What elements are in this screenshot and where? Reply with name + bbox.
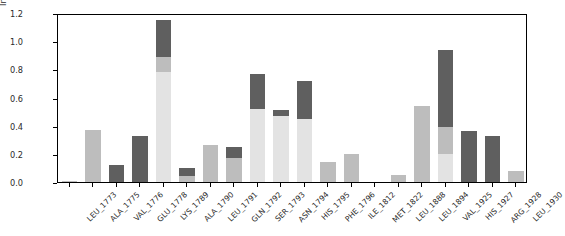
bar-his_1795 [297,13,313,182]
bar-leu_1894 [414,13,430,182]
bar-ile_1812 [344,13,360,182]
bar-segment-dark [226,147,242,158]
bar-segment-light [438,154,454,182]
bar-leu_1930 [508,13,524,182]
bar-glu_1778 [132,13,148,182]
bar-segment-dark [132,136,148,182]
bar-his_1927 [461,13,477,182]
x-axis-tick-mark [327,183,328,187]
y-axis-tick-label: 0.4 [10,122,23,132]
bar-segment-medium [226,158,242,182]
x-axis-tick-mark [515,183,516,187]
x-axis-tick-mark [116,183,117,187]
bar-segment-medium [156,57,172,72]
bar-val_1776 [109,13,125,182]
x-axis-tick-mark [92,183,93,187]
y-axis-tick-label: 1.0 [10,37,23,47]
bar-segment-light [297,119,313,182]
bar-val_1925 [438,13,454,182]
y-axis-tick-label: 0.0 [10,178,23,188]
x-axis-tick-mark [186,183,187,187]
x-axis-tick-mark [351,183,352,187]
bar-leu_1773 [62,13,78,182]
bar-segment-medium [85,130,101,182]
x-axis-tick-mark [492,183,493,187]
x-axis-tick-mark [69,183,70,187]
x-axis-tick-mark [445,183,446,187]
x-axis-tick-mark [398,183,399,187]
bar-leu_1888 [391,13,407,182]
x-axis-tick-mark [468,183,469,187]
y-axis-tick-label: 0.6 [10,94,23,104]
bar-segment-dark [438,50,454,127]
bar-segment-medium [344,154,360,182]
bar-segment-dark [156,20,172,57]
bar-met_1822 [367,13,383,182]
bar-segment-medium [203,145,219,182]
x-axis-tick-mark [257,183,258,187]
bar-segment-light [273,116,289,182]
bar-segment-medium [179,176,195,182]
x-axis-tick-mark [374,183,375,187]
y-axis-tick-label: 0.8 [10,65,23,75]
x-axis-tick-mark [280,183,281,187]
y-axis-tick-label: 1.2 [10,9,23,19]
x-axis-tick-mark [210,183,211,187]
bar-segment-dark [485,136,501,182]
bar-segment-light [156,72,172,182]
bar-segment-dark [109,165,125,182]
bar-segment-light [250,109,266,182]
bar-segment-dark [297,81,313,119]
y-axis-label: Interactions Fraction [0,0,8,28]
x-axis-tick-mark [233,183,234,187]
bar-phe_1796 [320,13,336,182]
bar-ser_1793 [250,13,266,182]
bar-segment-medium [391,175,407,182]
x-axis-tick-mark [421,183,422,187]
bar-segment-medium [320,162,336,182]
bar-lys_1789 [156,13,172,182]
bar-segment-medium [62,181,78,182]
y-axis-tick-mark [53,183,57,184]
bar-ala_1775 [85,13,101,182]
bar-segment-dark [461,131,477,182]
x-axis-tick-mark [163,183,164,187]
bar-segment-dark [179,168,195,176]
bar-segment-medium [508,171,524,182]
bar-gln_1792 [226,13,242,182]
x-axis-tick-mark [139,183,140,187]
y-axis-tick-label: 0.2 [10,150,23,160]
bar-asn_1794 [273,13,289,182]
bar-segment-medium [438,127,454,154]
x-axis-tick-mark [304,183,305,187]
bar-segment-dark [250,74,266,109]
bar-arg_1928 [485,13,501,182]
bar-segment-medium [414,106,430,182]
bar-ala_1790 [179,13,195,182]
plot-area [57,14,527,183]
bar-leu_1791 [203,13,219,182]
